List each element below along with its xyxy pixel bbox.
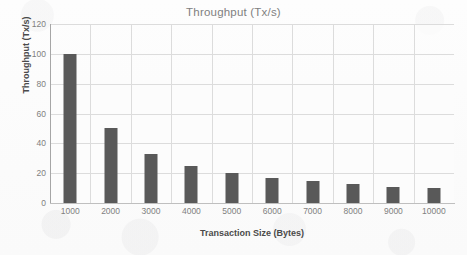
bar [306, 181, 319, 203]
x-axis-tick-label: 2000 [101, 206, 120, 216]
x-axis-tick-label: 6000 [263, 206, 282, 216]
bar [427, 188, 440, 203]
x-axis-tick-label: 4000 [182, 206, 201, 216]
x-axis-tick-labels: 1000200030004000500060007000800090001000… [50, 206, 454, 220]
x-axis-line [50, 203, 455, 204]
x-axis-tick-label: 1000 [61, 206, 80, 216]
bar [266, 178, 279, 203]
bars-layer [50, 24, 454, 203]
chart-title: Throughput (Tx/s) [0, 6, 467, 18]
bar-chart: Throughput (Tx/s) 020406080100120 Throug… [0, 0, 467, 255]
bar [185, 166, 198, 203]
y-axis-tick-label: 20 [2, 168, 46, 178]
bar [347, 184, 360, 203]
x-axis-tick-label: 9000 [384, 206, 403, 216]
y-axis-title: Throughput (Tx/s) [21, 0, 31, 125]
x-axis-title: Transaction Size (Bytes) [50, 228, 454, 238]
y-axis-tick-label: 0 [2, 198, 46, 208]
x-axis-tick-label: 10000 [422, 206, 446, 216]
x-axis-tick-label: 5000 [222, 206, 241, 216]
bar [225, 173, 238, 203]
y-axis-tick-label: 40 [2, 138, 46, 148]
x-axis-tick-label: 3000 [142, 206, 161, 216]
bar [64, 54, 77, 203]
bar [104, 128, 117, 203]
x-axis-tick-label: 7000 [303, 206, 322, 216]
bar [145, 154, 158, 203]
x-axis-tick-label: 8000 [344, 206, 363, 216]
bar [387, 187, 400, 203]
